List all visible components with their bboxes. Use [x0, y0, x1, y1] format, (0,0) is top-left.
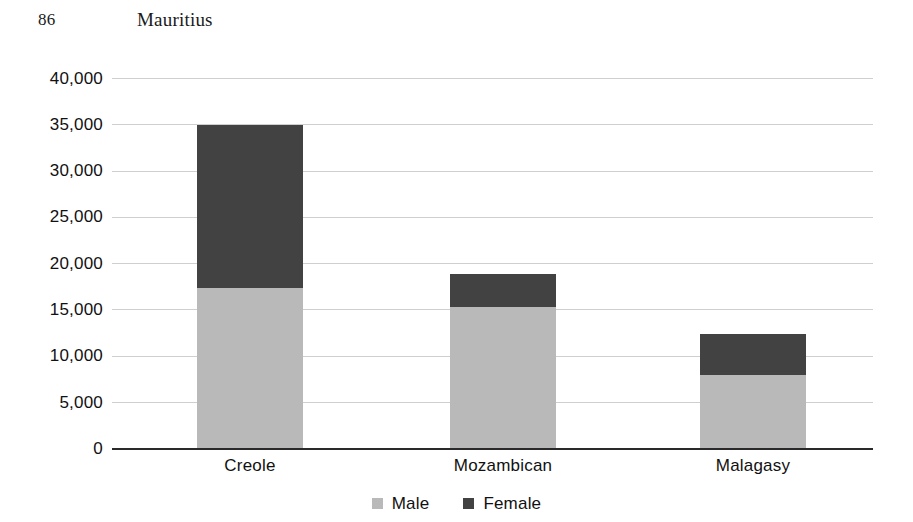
x-tick-mozambican: Mozambican [393, 456, 613, 476]
legend-label-female: Female [483, 495, 541, 512]
y-tick-35000: 35,000 [7, 116, 103, 133]
legend-entry-female[interactable]: Female [463, 495, 541, 512]
bar-malagasy-female[interactable] [700, 334, 806, 375]
bar-mozambican-male[interactable] [450, 307, 556, 448]
x-tick-malagasy: Malagasy [643, 456, 863, 476]
running-head-title: Mauritius [137, 9, 213, 31]
legend-entry-male[interactable]: Male [372, 495, 430, 512]
y-tick-5000: 5,000 [7, 394, 103, 411]
bar-malagasy-male[interactable] [700, 375, 806, 448]
bar-creole-female[interactable] [197, 125, 303, 288]
bar-mozambican-female[interactable] [450, 274, 556, 307]
stacked-bar-chart: 40,000 35,000 30,000 25,000 20,000 15,00… [0, 46, 913, 522]
x-tick-creole: Creole [140, 456, 360, 476]
y-axis-tick-labels: 40,000 35,000 30,000 25,000 20,000 15,00… [0, 46, 103, 522]
y-tick-40000: 40,000 [7, 70, 103, 87]
male-legend-swatch-icon [372, 498, 383, 509]
y-tick-10000: 10,000 [7, 347, 103, 364]
y-tick-20000: 20,000 [7, 255, 103, 272]
plot-area [112, 78, 873, 448]
legend-label-male: Male [392, 495, 430, 512]
gridline-40000 [112, 78, 873, 79]
bar-creole-male[interactable] [197, 288, 303, 448]
female-legend-swatch-icon [463, 498, 474, 509]
y-tick-15000: 15,000 [7, 301, 103, 318]
page-number: 86 [38, 10, 56, 30]
page-header: 86 Mauritius [0, 0, 913, 46]
chart-legend: Male Female [0, 490, 913, 516]
y-tick-25000: 25,000 [7, 208, 103, 225]
x-axis-baseline [112, 448, 873, 450]
y-tick-0: 0 [7, 440, 103, 457]
y-tick-30000: 30,000 [7, 162, 103, 179]
